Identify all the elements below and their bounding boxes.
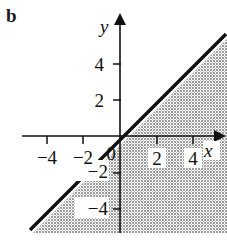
coordinate-plane-chart: 4 2 −2 −4 −4 −2 0 2 4 x y (0, 0, 227, 243)
figure-panel: b (0, 0, 227, 243)
x-tick-label-4: 4 (188, 148, 198, 169)
x-axis-name: x (203, 140, 213, 161)
x-tick-label-neg4: −4 (37, 147, 58, 168)
y-tick-label-2: 2 (95, 90, 105, 111)
x-tick-label-2: 2 (152, 148, 162, 169)
y-axis-name: y (98, 16, 109, 37)
x-tick-label-origin: 0 (106, 143, 116, 164)
y-tick-label-neg4: −4 (88, 198, 109, 219)
y-tick-label-4: 4 (95, 54, 105, 75)
x-tick-label-neg2: −2 (73, 147, 93, 168)
